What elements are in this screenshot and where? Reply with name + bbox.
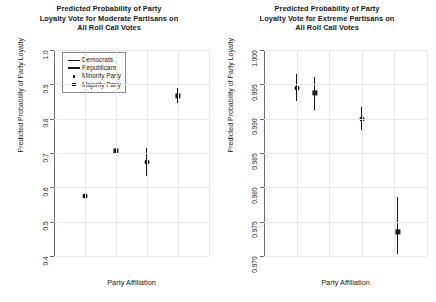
gridline-vertical xyxy=(427,50,428,256)
x-axis-title-moderate: Party Affiliation xyxy=(54,278,209,287)
gridline-vertical xyxy=(147,50,148,256)
gridline-horizontal xyxy=(54,153,209,154)
y-axis-tick xyxy=(260,222,264,223)
gridline-horizontal xyxy=(264,187,427,188)
y-axis-tick-label: 0.4 xyxy=(43,256,50,265)
legend-entry-democrats: Democrats xyxy=(66,56,121,64)
gridline-horizontal xyxy=(54,50,209,51)
gridline-horizontal xyxy=(54,84,209,85)
y-axis-tick xyxy=(260,119,264,120)
gridline-horizontal xyxy=(264,119,427,120)
legend-entry-minority-party: Minority Party xyxy=(66,72,121,80)
y-axis-tick xyxy=(50,256,54,257)
y-axis-tick-label: 0.990 xyxy=(253,119,260,136)
gridline-horizontal xyxy=(264,256,427,257)
gridline-horizontal xyxy=(264,153,427,154)
gridline-vertical xyxy=(329,50,330,256)
gridline-vertical xyxy=(209,50,210,256)
y-axis-tick-label: 1.0 xyxy=(43,50,50,59)
panel-moderate-partisans: Predicted Probability of Party Loyalty V… xyxy=(0,0,218,302)
two-panel-figure: Predicted Probability of Party Loyalty V… xyxy=(0,0,436,302)
y-axis-tick-label: 0.8 xyxy=(43,119,50,128)
data-point-marker xyxy=(312,91,317,96)
gridline-horizontal xyxy=(54,222,209,223)
gridline-horizontal xyxy=(54,119,209,120)
y-axis-tick xyxy=(50,84,54,85)
y-axis-tick-label: 0.7 xyxy=(43,153,50,162)
y-axis-tick xyxy=(50,50,54,51)
y-axis-tick xyxy=(260,256,264,257)
panel-extreme-partisans: Predicted Probability of Party Loyalty V… xyxy=(218,0,436,302)
gridline-vertical xyxy=(178,50,179,256)
plot-area-extreme: 0.9700.9750.9800.9850.9900.9951.000 xyxy=(264,50,427,256)
gridline-vertical xyxy=(116,50,117,256)
gridline-vertical xyxy=(297,50,298,256)
small-square-icon xyxy=(66,75,82,77)
gridline-horizontal xyxy=(264,222,427,223)
y-axis-tick-label: 0.6 xyxy=(43,187,50,196)
thin-line-icon xyxy=(66,60,82,61)
legend-label-democrats: Democrats xyxy=(82,56,113,64)
gridline-vertical xyxy=(394,50,395,256)
y-axis-tick xyxy=(50,222,54,223)
y-axis-tick xyxy=(50,187,54,188)
y-axis-tick xyxy=(260,153,264,154)
y-axis-tick-label: 0.995 xyxy=(253,84,260,101)
plot-area-moderate: Democrats Republicans Minority Party Maj… xyxy=(54,50,209,256)
y-axis-tick-label: 0.975 xyxy=(253,222,260,239)
legend-entry-republicans: Republicans xyxy=(66,64,121,72)
y-axis-tick-label: 0.985 xyxy=(253,153,260,170)
gridline-horizontal xyxy=(54,187,209,188)
gridline-horizontal xyxy=(264,50,427,51)
y-axis-tick-label: 0.9 xyxy=(43,84,50,93)
panel-title-moderate: Predicted Probability of Party Loyalty V… xyxy=(8,4,210,33)
gridline-horizontal xyxy=(264,84,427,85)
y-axis-tick-label: 0.970 xyxy=(253,256,260,273)
panel-title-extreme: Predicted Probability of Party Loyalty V… xyxy=(226,4,428,33)
x-axis-title-extreme: Party Affiliation xyxy=(264,278,427,287)
gridline-vertical xyxy=(362,50,363,256)
y-axis-tick xyxy=(260,84,264,85)
y-axis-tick-label: 0.5 xyxy=(43,222,50,231)
gridline-vertical xyxy=(85,50,86,256)
data-point-marker xyxy=(395,229,400,234)
y-axis-tick xyxy=(260,187,264,188)
y-axis-tick-label: 1.000 xyxy=(253,50,260,67)
y-axis-tick xyxy=(50,119,54,120)
y-axis-tick xyxy=(50,153,54,154)
legend-label-republicans: Republicans xyxy=(82,64,117,72)
thick-line-icon xyxy=(66,67,82,69)
gridline-horizontal xyxy=(54,256,209,257)
y-axis-tick-label: 0.980 xyxy=(253,187,260,204)
error-bar xyxy=(397,197,399,254)
y-axis-tick xyxy=(260,50,264,51)
